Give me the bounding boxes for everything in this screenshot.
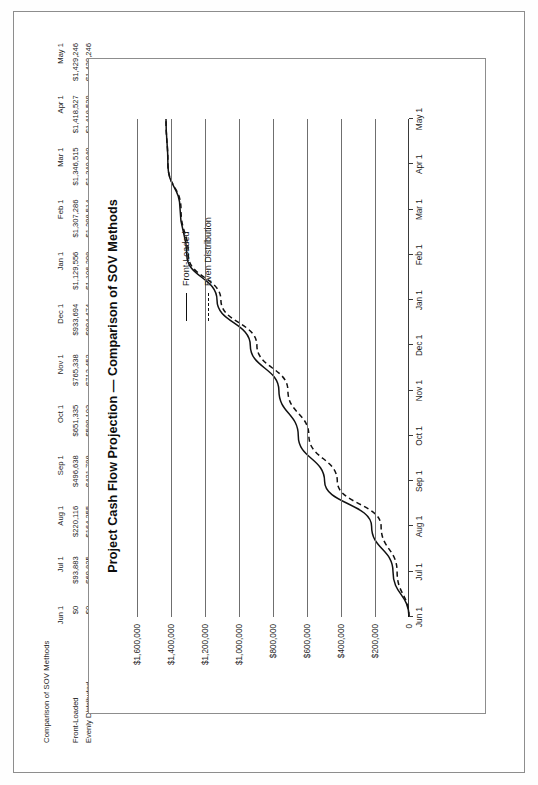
table-cell: $496,638	[71, 455, 84, 506]
table-col-header: Jan 1	[56, 251, 71, 303]
legend-label: Even Distribution	[203, 217, 213, 286]
x-axis-tick	[409, 344, 413, 345]
legend-line-swatch	[208, 293, 209, 321]
legend-line-swatch	[186, 293, 187, 321]
table-cell: $1,429,246	[71, 43, 84, 95]
y-gridline	[239, 119, 240, 617]
table-cell: $1,129,556	[71, 251, 84, 303]
y-axis-tick-label: $600,000	[303, 624, 312, 658]
table-cell: $93,883	[71, 556, 84, 605]
table-cell: $1,418,527	[71, 95, 84, 147]
series-line-2	[166, 119, 409, 617]
y-axis-tick-label: $1,000,000	[235, 624, 244, 665]
x-axis-tick-label: Oct 1	[415, 426, 424, 446]
table-col-header: Dec 1	[56, 303, 71, 354]
x-axis-tick	[409, 434, 413, 435]
x-axis-tick-label: Apr 1	[415, 154, 424, 174]
table-cell: $1,346,515	[71, 147, 84, 199]
x-axis-tick	[409, 208, 413, 209]
chart-title: Project Cash Flow Projection — Compariso…	[106, 59, 120, 713]
x-axis-tick-label: Nov 1	[415, 379, 424, 400]
legend-item: Front-Loaded	[181, 217, 191, 321]
x-axis-tick-label: Feb 1	[415, 244, 424, 265]
table-col-header: Apr 1	[56, 95, 71, 147]
table-row-label: Front-Loaded	[71, 652, 84, 742]
x-axis-tick-label: May 1	[415, 107, 424, 129]
x-axis-tick-label: Jan 1	[415, 290, 424, 310]
landscape-sheet: Comparison of SOV Methods Jun 1Jul 1Aug …	[26, 25, 512, 761]
x-axis-tick	[409, 299, 413, 300]
legend-label: Front-Loaded	[181, 231, 191, 286]
table-cell: $933,694	[71, 303, 84, 354]
x-axis-tick	[409, 163, 413, 164]
x-axis-tick	[409, 480, 413, 481]
x-axis-tick-label: Aug 1	[415, 515, 424, 536]
y-axis-tick-label: $1,600,000	[133, 624, 142, 665]
table-col-header: Sep 1	[56, 455, 71, 506]
x-axis-tick	[409, 389, 413, 390]
y-axis-tick-label: $200,000	[371, 624, 380, 658]
table-cell: $765,338	[71, 354, 84, 405]
table-cell: $651,335	[71, 404, 84, 455]
x-axis-tick-label: Mar 1	[415, 199, 424, 220]
x-axis-tick	[409, 118, 413, 119]
y-axis-tick-label: $1,200,000	[201, 624, 210, 665]
table-header-row: Jun 1Jul 1Aug 1Sep 1Oct 1Nov 1Dec 1Jan 1…	[56, 43, 71, 743]
x-axis-tick	[409, 253, 413, 254]
legend-item: Even Distribution	[203, 217, 213, 321]
table-col-header: Aug 1	[56, 505, 71, 556]
table-corner-cell	[56, 652, 71, 742]
x-axis-tick	[409, 525, 413, 526]
table-col-header: Mar 1	[56, 147, 71, 199]
y-axis-tick-label: $400,000	[337, 624, 346, 658]
x-axis-tick-label: Jul 1	[415, 563, 424, 580]
table-cell: $220,116	[71, 505, 84, 556]
table-col-header: Oct 1	[56, 404, 71, 455]
table-col-header: Feb 1	[56, 199, 71, 251]
x-axis-tick	[409, 570, 413, 571]
y-axis-tick-label: $800,000	[269, 624, 278, 658]
scanned-page: Comparison of SOV Methods Jun 1Jul 1Aug …	[0, 0, 538, 785]
table-col-header: Nov 1	[56, 354, 71, 405]
y-gridline	[341, 119, 342, 617]
table-col-header: May 1	[56, 43, 71, 95]
y-gridline	[137, 119, 138, 617]
y-axis-tick-label: 0	[405, 624, 414, 629]
x-axis-tick	[409, 616, 413, 617]
y-gridline	[205, 119, 206, 617]
table-caption: Comparison of SOV Methods	[42, 43, 51, 743]
table-cell: $0	[71, 605, 84, 652]
series-line-1	[166, 119, 409, 617]
table-cell: $1,307,286	[71, 199, 84, 251]
x-axis-tick-label: Jun 1	[415, 606, 424, 626]
chart-frame: Project Cash Flow Projection — Compariso…	[88, 58, 486, 714]
table-col-header: Jun 1	[56, 605, 71, 652]
x-axis-tick-label: Dec 1	[415, 334, 424, 355]
chart-legend: Front-LoadedEven Distribution	[181, 217, 225, 321]
table-col-header: Jul 1	[56, 556, 71, 605]
y-gridline	[307, 119, 308, 617]
x-axis-tick-label: Sep 1	[415, 470, 424, 491]
table-row: Front-Loaded$0$93,883$220,116$496,638$65…	[71, 43, 84, 743]
y-gridline	[273, 119, 274, 617]
plot-area: 0$200,000$400,000$600,000$800,000$1,000,…	[137, 119, 409, 617]
y-gridline	[375, 119, 376, 617]
y-axis-tick-label: $1,400,000	[167, 624, 176, 665]
y-gridline	[171, 119, 172, 617]
